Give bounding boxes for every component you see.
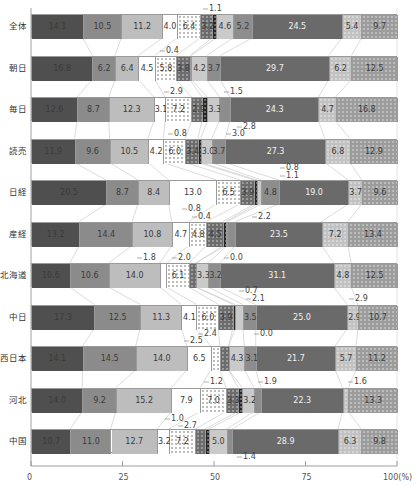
segment-value: 5.8 — [160, 64, 173, 73]
bar-segment: 3.2 — [158, 430, 170, 454]
callout-label: 1.2 — [210, 377, 223, 386]
bar-segment: 9.6 — [76, 140, 111, 164]
bar-segment: 13.2 — [32, 223, 80, 247]
bar-segment: 3.3 — [197, 264, 209, 288]
stacked-bar: 13.214.410.84.74.84.523.57.213.4 — [31, 222, 397, 246]
segment-value: 16.8 — [53, 64, 71, 73]
bar-segment: 5.2 — [234, 15, 253, 39]
segment-value: 8.4 — [147, 188, 160, 197]
segment-value: 4.8 — [264, 188, 277, 197]
bar-segment: 3.9 — [241, 181, 255, 205]
segment-value: 7.9 — [180, 396, 193, 405]
segment-value: 12.6 — [46, 105, 64, 114]
segment-value: 7.0 — [207, 396, 220, 405]
bar-segment: 3.0 — [202, 140, 213, 164]
segment-value: 10.8 — [143, 230, 161, 239]
bar-segment: 14.1 — [32, 347, 84, 371]
segment-value: 14.1 — [48, 354, 66, 363]
bar-segment: 6.5 — [188, 347, 212, 371]
callout-label: 2.1 — [252, 294, 265, 303]
callout-label: 0.0 — [260, 329, 273, 338]
bar-segment: 2.9 — [192, 98, 203, 122]
x-tick-label: 75 — [302, 473, 312, 482]
callout-label: 2.9 — [170, 87, 183, 96]
bar-segment: 4.8 — [190, 223, 208, 247]
bar-segment: 13.3 — [349, 389, 398, 413]
stacked-bar-chart: 全体14.110.511.24.06.43.24.65.224.55.49.7朝… — [0, 0, 417, 486]
category-label: 河北 — [0, 394, 27, 406]
bar-segment: 10.8 — [133, 223, 173, 247]
bar-segment: 24.5 — [253, 15, 343, 39]
segment-value: 24.3 — [266, 105, 284, 114]
segment-value: 3.5 — [244, 313, 257, 322]
bar-segment: 6.0 — [164, 140, 186, 164]
bar-segment: 13.0 — [170, 181, 218, 205]
segment-value: 3.3 — [197, 271, 210, 280]
bar-segment — [255, 389, 262, 413]
bar-segment: 4.0 — [163, 15, 178, 39]
bar-segment: 4.7 — [319, 98, 336, 122]
bar-segment: 10.7 — [359, 306, 398, 330]
callout-label: 1.5 — [230, 87, 243, 96]
bar-segment: 9.8 — [362, 430, 398, 454]
bar-segment: 17.3 — [32, 306, 95, 330]
segment-value: 6.0 — [202, 313, 215, 322]
segment-value: 3.7 — [349, 188, 362, 197]
stacked-bar: 12.68.712.33.17.22.93.324.34.716.8 — [31, 97, 397, 121]
segment-value: 3.3 — [227, 396, 240, 405]
stacked-bar: 11.99.610.54.26.03.43.03.727.36.812.9 — [31, 139, 397, 163]
category-label: 西日本 — [0, 352, 27, 364]
bar-segment: 12.6 — [32, 98, 78, 122]
bar-segment: 20.5 — [32, 181, 107, 205]
segment-value: 6.2 — [334, 64, 347, 73]
bar-segment: 6.4 — [116, 57, 139, 81]
x-tick-label: 25 — [119, 473, 129, 482]
bar-segment: 2.9 — [348, 306, 359, 330]
segment-value: 27.3 — [267, 147, 285, 156]
bar-segment: 4.3 — [230, 347, 246, 371]
segment-value: 3.9 — [241, 188, 254, 197]
bar-segment: 12.3 — [110, 98, 155, 122]
bar-segment: 12.5 — [352, 264, 398, 288]
bar-segment: 8.7 — [78, 98, 110, 122]
bar-segment: 5.4 — [343, 15, 363, 39]
bar-segment — [196, 430, 206, 454]
bar-segment: 12.9 — [351, 140, 398, 164]
segment-value: 3.3 — [208, 105, 221, 114]
segment-value: 10.7 — [42, 437, 60, 446]
callout-label: 2.9 — [355, 294, 368, 303]
bar-segment: 10.7 — [32, 430, 71, 454]
bar-segment: 11.0 — [71, 430, 111, 454]
segment-value: 7.2 — [329, 230, 342, 239]
bar-segment: 3.8 — [177, 57, 191, 81]
bar-segment: 6.5 — [217, 181, 241, 205]
segment-value: 4.8 — [192, 230, 205, 239]
category-label: 朝日 — [0, 62, 27, 74]
bar-segment: 14.0 — [137, 347, 188, 371]
bar-segment: 9.7 — [362, 15, 398, 39]
bar-segment — [161, 264, 168, 288]
x-tick-label: 100(%) — [383, 473, 412, 482]
bar-segment: 4.8 — [335, 264, 353, 288]
callout-label: 2.2 — [258, 212, 271, 221]
bar-segment: 4.5 — [207, 223, 223, 247]
segment-value: 13.2 — [47, 230, 65, 239]
category-label: 毎日 — [0, 103, 27, 115]
bar-segment: 14.1 — [32, 15, 84, 39]
bar-segment — [212, 347, 221, 371]
segment-value: 12.5 — [366, 271, 384, 280]
bar-segment: 4.7 — [173, 223, 190, 247]
segment-value: 23.5 — [270, 230, 288, 239]
bar-segment: 9.2 — [83, 389, 117, 413]
segment-value: 6.5 — [222, 188, 235, 197]
segment-value: 24.5 — [288, 22, 306, 31]
bar-segment: 14.0 — [32, 389, 83, 413]
bar-segment: 11.9 — [32, 140, 76, 164]
bar-segment: 11.2 — [122, 15, 163, 39]
bar-segment: 14.4 — [80, 223, 133, 247]
segment-value: 7.2 — [176, 437, 189, 446]
x-tick-label: 50 — [210, 473, 220, 482]
segment-value: 6.3 — [344, 437, 357, 446]
segment-value: 10.5 — [93, 22, 111, 31]
callout-label: 2.0 — [178, 253, 191, 262]
